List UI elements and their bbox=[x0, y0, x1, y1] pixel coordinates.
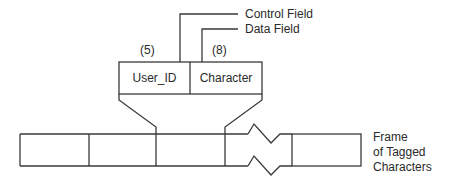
break-zigzag-bottom bbox=[248, 156, 292, 175]
character-field: Character bbox=[200, 71, 253, 85]
data-field-label: Data Field bbox=[245, 22, 300, 36]
expansion-funnel bbox=[119, 94, 262, 134]
tagged-character-frame-diagram: Control Field Data Field (5) (8) User_ID… bbox=[0, 0, 453, 183]
frame-label-line-3: Characters bbox=[373, 160, 432, 174]
user-id-field: User_ID bbox=[132, 71, 176, 85]
break-zigzag-top bbox=[248, 124, 292, 143]
control-field-label: Control Field bbox=[245, 7, 313, 21]
character-size: (8) bbox=[212, 43, 227, 57]
frame-label-line-2: of Tagged bbox=[373, 145, 426, 159]
frame-label-line-1: Frame bbox=[373, 130, 408, 144]
user-id-size: (5) bbox=[140, 43, 155, 57]
control-field-leader bbox=[180, 14, 238, 62]
frame-cells bbox=[20, 124, 361, 175]
